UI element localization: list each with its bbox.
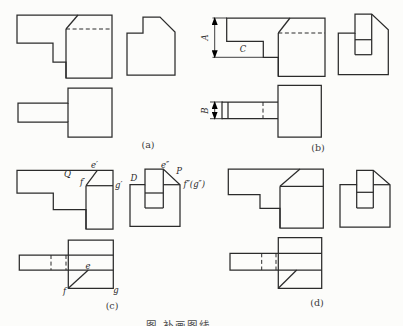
panel-b-top-arm-outline	[222, 102, 278, 119]
panel-c-top-square-outline	[68, 240, 113, 288]
panel-c-point-label-e: e	[85, 261, 90, 271]
panel-c-point-label-f-g-dblprime: f″(g″)	[183, 179, 206, 189]
panel-d: (d)	[228, 169, 390, 308]
panel-c-side-outline	[130, 169, 180, 226]
panel-c-point-label-f: f	[62, 286, 68, 296]
panel-c-front-outline	[17, 170, 113, 229]
panel-d-top-square-outline	[278, 238, 321, 289]
panel-d-side-outline	[340, 170, 390, 227]
panel-c-front-chamfer-edge	[86, 170, 97, 185]
panel-c-point-label-P: P	[175, 166, 182, 176]
panel-c-top-cut-diagonal	[68, 270, 88, 288]
figure-svg: (a)ACB(b)Qe′f′g′De″Pf″(g″)efg(c)(d)	[0, 0, 403, 326]
panel-b-dim-label-a: A	[200, 34, 210, 41]
panel-c-point-label-e-dblprime: e″	[161, 160, 170, 170]
panel-d-front-chamfer-edge	[280, 169, 300, 186]
panel-a-front-outline	[17, 15, 112, 78]
panel-d-top-cut-diagonal	[278, 270, 296, 288]
panel-a: (a)	[17, 15, 175, 150]
panel-b-caption: (b)	[311, 142, 325, 153]
panel-b: ACB(b)	[200, 14, 389, 153]
panel-a-side-outline	[127, 17, 175, 75]
panel-a-top-outline	[18, 88, 112, 137]
panel-c-point-label-f-prime: f′	[79, 177, 85, 187]
panel-c-point-label-D: D	[130, 173, 138, 183]
panel-d-front-outline	[228, 169, 323, 228]
panel-a-caption: (a)	[141, 139, 154, 150]
figure-caption-cutoff: 图 补画图线	[146, 319, 276, 326]
figure: (a)ACB(b)Qe′f′g′De″Pf″(g″)efg(c)(d) 图 补画…	[0, 0, 403, 326]
panel-b-top-square-outline	[278, 85, 321, 137]
panel-b-dim-label-c: C	[240, 44, 247, 54]
panel-a-front-chamfer-edge	[66, 15, 78, 29]
panel-c-point-label-e-prime: e′	[91, 160, 98, 170]
panel-c-point-label-Q: Q	[64, 169, 71, 179]
panel-c-point-label-g-prime: g′	[115, 180, 122, 190]
panel-b-front-chamfer-edge	[278, 18, 290, 33]
panel-c: Qe′f′g′De″Pf″(g″)efg(c)	[17, 160, 205, 311]
panel-c-top-arm-outline	[19, 255, 68, 270]
panel-d-caption: (d)	[310, 297, 324, 308]
panel-b-dim-label-b: B	[200, 107, 210, 114]
panel-c-caption: (c)	[106, 300, 119, 311]
panel-c-point-label-g: g	[113, 285, 119, 295]
panel-b-side-outline	[338, 14, 388, 75]
panel-d-top-arm-outline	[230, 253, 278, 270]
